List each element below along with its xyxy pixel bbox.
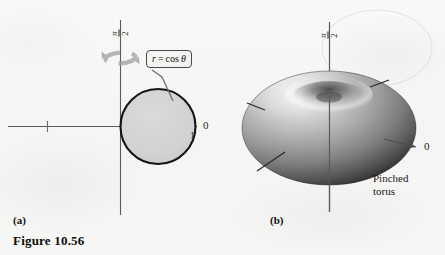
panel-b-caption: (b) [270, 214, 283, 226]
figure-panel-b: π 2 0 (b) [222, 0, 445, 255]
figure-page: π 2 0 1 r=cosθ (a) [0, 0, 445, 255]
pinched-torus-line-1: Pinched [373, 172, 408, 185]
figure-panel-a: π 2 0 1 r=cosθ (a) [0, 0, 222, 255]
panel-b-polar-axis-label: 0 [424, 140, 430, 152]
panel-a-polar-axis-label: 0 [203, 119, 209, 131]
pinched-torus-line-2: torus [373, 185, 408, 198]
panel-a-vertical-axis-label: π 2 [110, 25, 129, 43]
panel-b-vertical-axis-label: π 2 [319, 27, 338, 45]
callout-r: r [152, 53, 156, 64]
callout-equals: = [158, 53, 164, 64]
pinched-torus-annotation: Pinched torus [373, 172, 408, 198]
curve-equation-callout: r=cosθ [146, 50, 192, 68]
figure-number-label: Figure 10.56 [13, 233, 85, 249]
panel-a-caption: (a) [13, 214, 26, 226]
panel-a-x-tick-label: 1 [190, 130, 195, 141]
callout-theta: θ [181, 53, 186, 64]
circle-r-equals-cos-theta [121, 89, 196, 164]
callout-cos: cos [166, 53, 179, 64]
